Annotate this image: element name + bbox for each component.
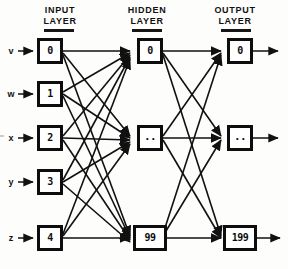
output-node-199: 199: [223, 225, 257, 251]
input-node-2: 2: [37, 125, 63, 151]
hidden-node-ellipsis: ..: [137, 125, 163, 151]
input-node-3: 3: [37, 169, 63, 195]
input-variable-arrows: [18, 51, 33, 238]
output-arrows: [253, 51, 280, 238]
output-node-ellipsis: ..: [227, 125, 253, 151]
input-node-4: 4: [37, 225, 63, 251]
input-variable-label-v: v: [4, 46, 18, 56]
input-node-0: 0: [37, 38, 63, 64]
input-variable-label-x: x: [4, 133, 18, 143]
input-variable-label-z: z: [4, 233, 18, 243]
input-variable-label-y: y: [4, 177, 18, 187]
hidden-node-99: 99: [133, 225, 167, 251]
input-to-hidden-edges: [63, 51, 130, 242]
input-variable-label-w: w: [4, 89, 18, 99]
neural-network-diagram: INPUT LAYER HIDDEN LAYER OUTPUT LAYER: [0, 0, 288, 269]
input-node-1: 1: [37, 81, 63, 107]
scan-artifact: [0, 135, 4, 137]
hidden-node-0: 0: [137, 38, 163, 64]
output-node-0: 0: [227, 38, 253, 64]
hidden-to-output-edges: [163, 51, 221, 238]
